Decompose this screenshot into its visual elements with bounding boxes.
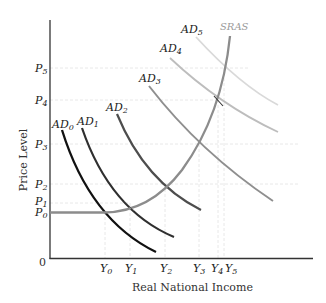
ad2-label: AD2 xyxy=(105,101,128,115)
p4-label: P4 xyxy=(34,94,48,108)
origin-label: 0 xyxy=(39,256,46,269)
ad5-curve xyxy=(196,37,278,105)
ad5-label: AD5 xyxy=(180,23,203,37)
ad4-label: AD4 xyxy=(159,42,182,56)
y0-label: Y0 xyxy=(100,262,112,276)
ad-sras-chart: AD0 AD1 AD2 AD3 AD4 AD5 SRAS P5 P4 P3 P2… xyxy=(0,0,326,303)
ad0-curve xyxy=(62,130,156,252)
y1-label: Y1 xyxy=(125,262,137,276)
ad1-label: AD1 xyxy=(76,115,99,129)
y-axis-title: Price Level xyxy=(17,128,30,191)
y3-label: Y3 xyxy=(193,262,205,276)
ad3-label: AD3 xyxy=(138,72,161,86)
sras-label: SRAS xyxy=(220,21,249,32)
p2-label: P2 xyxy=(34,178,48,192)
x-axis-title: Real National Income xyxy=(132,281,253,294)
y2-label: Y2 xyxy=(160,262,172,276)
p5-label: P5 xyxy=(34,62,48,76)
ad0-label: AD0 xyxy=(51,118,74,132)
y4-label: Y4 xyxy=(211,262,223,276)
y5-label: Y5 xyxy=(225,262,237,276)
p3-label: P3 xyxy=(34,138,48,152)
